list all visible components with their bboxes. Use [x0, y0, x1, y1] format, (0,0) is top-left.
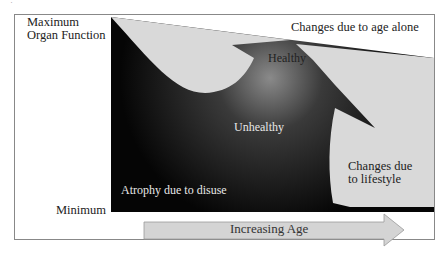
increasing-age-label: Increasing Age	[230, 222, 308, 236]
unhealthy-label: Unhealthy	[234, 121, 284, 134]
age-alone-label: Changes due to age alone	[291, 21, 419, 34]
lifestyle-line2: to lifestyle	[348, 173, 412, 186]
atrophy-label: Atrophy due to disuse	[121, 184, 227, 197]
y-axis-max-line2: Organ Function	[27, 29, 106, 42]
y-axis-min-label: Minimum	[56, 204, 106, 217]
healthy-label: Healthy	[268, 52, 306, 65]
y-axis-max-label: Maximum Organ Function	[27, 16, 106, 42]
lifestyle-label: Changes due to lifestyle	[348, 160, 412, 186]
